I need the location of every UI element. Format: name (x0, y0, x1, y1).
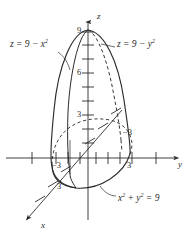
axis-label-x: x (41, 221, 45, 230)
label-equation-left-text: z = 9 − x (10, 39, 45, 49)
tick-label-z-3: 3 (77, 110, 81, 119)
figure-canvas: z = 9 − x2 z = 9 − y2 x2 + y2 = 9 z y x … (0, 0, 188, 240)
label-equation-right-text: z = 9 − y (117, 39, 152, 49)
axis-y (6, 152, 176, 164)
tick-label-x-3: 3 (57, 182, 61, 191)
label-equation-left-exponent: 2 (45, 38, 48, 44)
leader-circle-label (100, 186, 116, 196)
tick-label-z-9: 9 (77, 26, 81, 35)
tick-label-z-6: 6 (77, 68, 81, 77)
curve-dashed-drop (121, 140, 122, 152)
axis-label-z: z (97, 12, 101, 21)
label-equation-right: z = 9 − y2 (117, 40, 155, 50)
axis-label-y: y (178, 160, 182, 169)
label-equation-right-exponent: 2 (152, 38, 155, 44)
curve-inner-left-tail (70, 174, 76, 188)
label-circle-equals: = 9 (143, 193, 159, 203)
base-circle-visible-arc (52, 154, 130, 188)
tick-label-z-neg3: −3 (123, 128, 132, 137)
label-circle-plus-y: + y (125, 193, 140, 203)
label-equation-left: z = 9 − x2 (10, 40, 48, 50)
label-equation-circle: x2 + y2 = 9 (118, 194, 159, 204)
diagram-svg (0, 0, 188, 240)
tick-label-y-neg3: −3 (52, 161, 61, 170)
tick-label-y-pos3: 3 (127, 161, 131, 170)
